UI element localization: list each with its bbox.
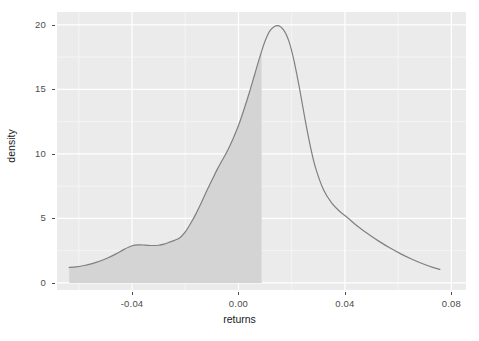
x-tick-label: 0.00: [213, 298, 263, 309]
y-tick-label: 15: [10, 83, 46, 94]
y-tick-mark: [52, 283, 55, 284]
y-tick-label: 20: [10, 19, 46, 30]
plot-panel: [57, 12, 466, 290]
plot-canvas: [57, 12, 466, 290]
x-tick-label: 0.04: [320, 298, 370, 309]
x-axis-title: returns: [0, 313, 479, 325]
y-tick-mark: [52, 89, 55, 90]
x-tick-mark: [451, 292, 452, 295]
x-tick-mark: [345, 292, 346, 295]
density-plot: 05101520 -0.040.000.040.08 returns densi…: [0, 0, 479, 341]
shaded-area-under-curve: [69, 52, 261, 283]
x-tick-mark: [132, 292, 133, 295]
x-tick-label: 0.08: [426, 298, 476, 309]
y-tick-mark: [52, 154, 55, 155]
y-tick-mark: [52, 218, 55, 219]
x-tick-mark: [238, 292, 239, 295]
x-tick-label: -0.04: [107, 298, 157, 309]
y-tick-label: 5: [10, 212, 46, 223]
y-tick-label: 0: [10, 277, 46, 288]
y-tick-mark: [52, 25, 55, 26]
y-axis-title: density: [5, 111, 17, 181]
